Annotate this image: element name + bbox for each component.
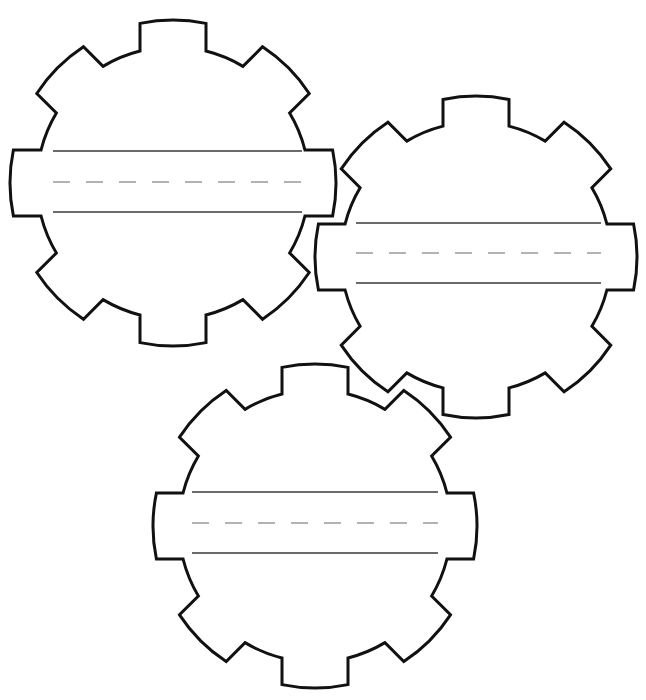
- gear-top-left: [10, 20, 336, 346]
- gear-worksheet: [0, 0, 646, 700]
- gear-right: [315, 96, 637, 418]
- gear-outline: [10, 20, 336, 346]
- gear-outline: [315, 96, 637, 418]
- gear-bottom: [153, 364, 477, 688]
- gear-outline: [153, 364, 477, 688]
